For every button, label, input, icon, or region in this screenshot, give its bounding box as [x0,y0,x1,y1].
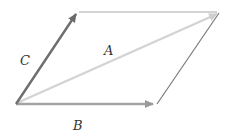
vector-diagram: C A B [0,0,230,138]
label-b: B [72,118,83,133]
label-c: C [20,53,30,68]
label-a: A [103,43,113,58]
